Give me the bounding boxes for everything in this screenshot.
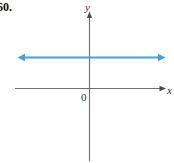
line-left-arrowhead-icon xyxy=(18,54,26,61)
x-axis-label: x xyxy=(167,85,172,96)
origin-label: 0 xyxy=(81,92,87,103)
coordinate-plane-svg xyxy=(0,0,174,163)
line-right-arrowhead-icon xyxy=(158,54,166,61)
x-axis xyxy=(15,86,166,91)
problem-number-label: 60. xyxy=(0,1,12,13)
y-axis xyxy=(87,12,92,162)
plotted-horizontal-line xyxy=(18,54,166,61)
graph-figure: 60. y x 0 xyxy=(0,0,174,163)
y-axis-label: y xyxy=(85,2,90,13)
x-axis-arrowhead-icon xyxy=(160,86,167,91)
